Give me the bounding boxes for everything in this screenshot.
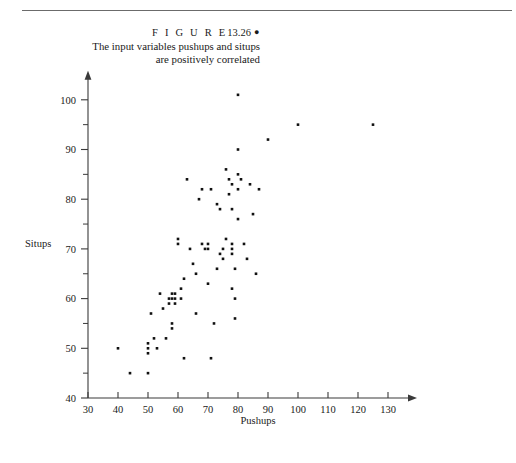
data-point <box>117 347 120 350</box>
data-point <box>171 327 174 330</box>
y-tick-label: 100 <box>60 95 76 106</box>
data-point <box>147 342 150 345</box>
data-point <box>225 168 228 171</box>
y-axis-arrow-icon <box>85 71 92 80</box>
data-point <box>249 183 252 186</box>
data-point <box>228 178 231 181</box>
data-point <box>159 292 162 295</box>
x-tick-label: 40 <box>113 404 124 415</box>
data-point <box>267 138 270 141</box>
y-tick-label: 50 <box>66 343 77 354</box>
data-point <box>171 322 174 325</box>
data-point <box>171 292 174 295</box>
data-point <box>234 267 237 270</box>
y-tick-label: 90 <box>66 144 77 155</box>
data-point <box>372 123 375 126</box>
x-tick-label: 60 <box>173 404 184 415</box>
data-point <box>150 312 153 315</box>
data-point <box>186 178 189 181</box>
data-point <box>192 263 195 266</box>
data-point <box>222 258 225 261</box>
axes-group <box>85 71 417 402</box>
data-point <box>204 248 207 251</box>
data-point <box>255 272 258 275</box>
data-point <box>210 357 213 360</box>
tick-labels-group: 3040506070809010011012013040506070809010… <box>60 95 396 415</box>
y-tick-label: 60 <box>66 293 77 304</box>
data-point <box>198 198 201 201</box>
data-point <box>168 297 171 300</box>
x-tick-label: 30 <box>83 404 94 415</box>
data-point <box>231 183 234 186</box>
data-point <box>165 337 168 340</box>
data-point <box>231 243 234 246</box>
data-point <box>183 357 186 360</box>
data-point <box>201 243 204 246</box>
data-point <box>258 188 261 191</box>
data-point <box>216 203 219 206</box>
data-point <box>147 352 150 355</box>
data-points-group <box>117 94 375 375</box>
data-point <box>243 243 246 246</box>
data-point <box>216 267 219 270</box>
data-point <box>129 372 132 375</box>
y-axis-title: Situps <box>25 238 51 249</box>
data-point <box>231 248 234 251</box>
data-point <box>180 287 183 290</box>
ticks-group <box>81 100 388 398</box>
data-point <box>213 322 216 325</box>
data-point <box>153 337 156 340</box>
data-point <box>252 213 255 216</box>
y-tick-label: 80 <box>66 194 77 205</box>
data-point <box>183 277 186 280</box>
data-point <box>207 248 210 251</box>
data-point <box>177 243 180 246</box>
x-axis-arrow-icon <box>408 395 417 402</box>
x-tick-label: 100 <box>290 404 306 415</box>
data-point <box>174 302 177 305</box>
data-point <box>237 188 240 191</box>
scatter-plot: 3040506070809010011012013040506070809010… <box>0 0 516 463</box>
data-point <box>210 188 213 191</box>
x-axis-title: Pushups <box>240 415 275 426</box>
data-point <box>231 208 234 211</box>
data-point <box>222 248 225 251</box>
data-point <box>234 317 237 320</box>
y-tick-label: 40 <box>66 393 77 404</box>
data-point <box>207 243 210 246</box>
data-point <box>225 238 228 241</box>
data-point <box>171 297 174 300</box>
data-point <box>174 297 177 300</box>
data-point <box>237 173 240 176</box>
data-point <box>234 297 237 300</box>
data-point <box>201 188 204 191</box>
data-point <box>168 302 171 305</box>
x-tick-label: 90 <box>263 404 274 415</box>
data-point <box>246 258 249 261</box>
x-tick-label: 110 <box>320 404 335 415</box>
x-tick-label: 120 <box>350 404 366 415</box>
data-point <box>180 297 183 300</box>
data-point <box>174 292 177 295</box>
x-tick-label: 70 <box>203 404 214 415</box>
data-point <box>231 287 234 290</box>
data-point <box>195 272 198 275</box>
data-point <box>177 238 180 241</box>
data-point <box>228 193 231 196</box>
data-point <box>237 218 240 221</box>
x-tick-label: 80 <box>233 404 244 415</box>
scatter-plot-canvas: 3040506070809010011012013040506070809010… <box>0 0 516 463</box>
data-point <box>231 253 234 256</box>
data-point <box>207 282 210 285</box>
data-point <box>162 307 165 310</box>
data-point <box>237 94 240 97</box>
y-tick-label: 70 <box>66 244 77 255</box>
data-point <box>237 148 240 151</box>
data-point <box>156 347 159 350</box>
data-point <box>189 248 192 251</box>
data-point <box>147 347 150 350</box>
data-point <box>240 178 243 181</box>
data-point <box>219 208 222 211</box>
x-tick-label: 50 <box>143 404 154 415</box>
x-tick-label: 130 <box>380 404 396 415</box>
